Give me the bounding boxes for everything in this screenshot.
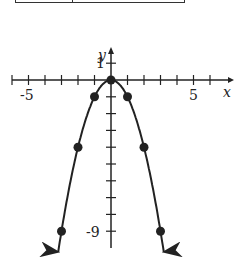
y-tick-label-1: 1 (96, 55, 105, 71)
x-axis-label: x (223, 84, 231, 100)
data-point (140, 143, 149, 152)
data-point (90, 92, 99, 101)
y-tick-label-neg9: -9 (86, 224, 100, 240)
data-point (107, 76, 116, 85)
axes (12, 47, 234, 248)
x-tick-label-neg5: -5 (20, 87, 34, 103)
x-tick-label-5: 5 (189, 87, 198, 103)
data-point (74, 143, 83, 152)
parabola-graph: x y -5 5 1 -9 (0, 0, 242, 263)
data-point (57, 227, 66, 236)
data-point (156, 227, 165, 236)
data-point (123, 92, 132, 101)
